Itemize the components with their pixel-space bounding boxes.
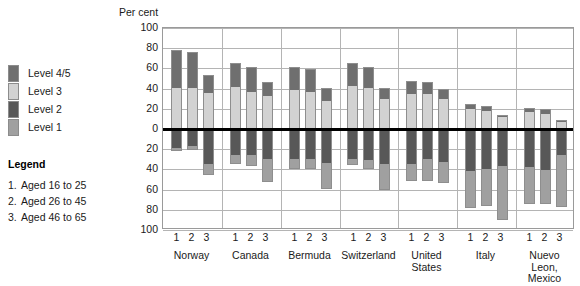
segment-level-1 — [171, 148, 182, 151]
subgroup-number: 1 — [348, 231, 359, 243]
segment-level-1 — [203, 164, 214, 175]
segment-level-1 — [481, 169, 492, 205]
age-number: 1. — [8, 177, 21, 193]
x-axis-labels: 123Norway123Canada123Bermuda123Switzerla… — [162, 231, 574, 286]
subgroup-number: 2 — [186, 231, 197, 243]
segment-level-3 — [262, 96, 273, 129]
segment-level-2 — [540, 129, 551, 170]
x-group-label: 123Italy — [456, 231, 515, 262]
y-tick-label: 20 — [118, 102, 158, 114]
segment-level-2 — [481, 129, 492, 169]
segment-level-3 — [465, 109, 476, 129]
subgroup-numbers: 123 — [397, 231, 456, 243]
segment-level-1 — [422, 159, 433, 180]
subgroup-number: 1 — [171, 231, 182, 243]
y-tick-label: 40 — [118, 162, 158, 174]
subgroup-number: 2 — [421, 231, 432, 243]
legend-item: Level 4/5 — [8, 64, 108, 82]
segment-level-2 — [347, 129, 358, 159]
segment-level-1 — [379, 164, 390, 189]
segment-level-2 — [262, 129, 273, 159]
age-legend: Legend 1. Aged 16 to 25 2. Aged 26 to 45… — [8, 158, 112, 225]
legend-label: Level 4/5 — [28, 68, 71, 79]
subgroup-number: 2 — [480, 231, 491, 243]
plot-area — [162, 27, 574, 229]
segment-level-45 — [438, 89, 449, 99]
level-1-swatch — [8, 119, 19, 136]
segment-level-2 — [230, 129, 241, 155]
country-label: Switzerland — [339, 250, 398, 262]
segment-level-1 — [363, 160, 374, 169]
y-tick-label: 80 — [118, 203, 158, 215]
segment-level-45 — [187, 52, 198, 87]
segment-level-3 — [305, 92, 316, 129]
segment-level-3 — [203, 93, 214, 129]
age-legend-item: 2. Aged 26 to 45 — [8, 193, 112, 209]
segment-level-2 — [465, 129, 476, 171]
segment-level-2 — [305, 129, 316, 159]
legend-label: Level 2 — [28, 104, 62, 115]
subgroup-number: 3 — [260, 231, 271, 243]
age-number: 3. — [8, 209, 21, 225]
subgroup-numbers: 123 — [339, 231, 398, 243]
segment-level-1 — [321, 163, 332, 188]
subgroup-numbers: 123 — [280, 231, 339, 243]
subgroup-number: 3 — [436, 231, 447, 243]
country-label: Nuevo Leon,Mexico — [515, 250, 574, 285]
age-legend-item: 1. Aged 16 to 25 — [8, 177, 112, 193]
x-group-label: 123UnitedStates — [397, 231, 456, 273]
segment-level-2 — [406, 129, 417, 164]
segment-level-1 — [406, 164, 417, 180]
segment-level-45 — [203, 75, 214, 92]
segment-level-45 — [230, 63, 241, 86]
chart: Per cent 10080604020020406080100 123Norw… — [118, 6, 576, 282]
subgroup-number: 3 — [554, 231, 565, 243]
segment-level-3 — [422, 94, 433, 129]
segment-level-3 — [406, 94, 417, 129]
level-45-swatch — [8, 65, 19, 82]
segment-level-45 — [465, 104, 476, 109]
subgroup-number: 3 — [201, 231, 212, 243]
segment-level-3 — [524, 112, 535, 129]
segment-level-2 — [289, 129, 300, 159]
segment-level-45 — [556, 120, 567, 122]
segment-level-45 — [422, 82, 433, 94]
segment-level-45 — [481, 106, 492, 111]
legend-item: Level 2 — [8, 100, 108, 118]
level-3-swatch — [8, 83, 19, 100]
subgroup-number: 1 — [524, 231, 535, 243]
subgroup-numbers: 123 — [221, 231, 280, 243]
legend-item: Level 1 — [8, 118, 108, 136]
y-tick-label: 100 — [118, 21, 158, 33]
segment-level-3 — [540, 114, 551, 129]
age-text: Aged 16 to 25 — [21, 177, 86, 193]
zero-axis-line — [163, 128, 573, 131]
segment-level-2 — [203, 129, 214, 164]
subgroup-number: 1 — [230, 231, 241, 243]
segment-level-45 — [171, 50, 182, 87]
segment-level-1 — [305, 159, 316, 169]
segment-level-3 — [289, 90, 300, 129]
segment-level-3 — [379, 99, 390, 129]
level-legend: Level 4/5 Level 3 Level 2 Level 1 — [8, 64, 108, 136]
segment-level-45 — [524, 108, 535, 112]
segment-level-45 — [347, 63, 358, 85]
subgroup-number: 3 — [495, 231, 506, 243]
segment-level-45 — [289, 67, 300, 89]
x-group-label: 123Canada — [221, 231, 280, 262]
age-text: Aged 26 to 45 — [21, 193, 86, 209]
segment-level-45 — [540, 109, 551, 114]
legend-label: Level 3 — [28, 86, 62, 97]
segment-level-2 — [556, 129, 567, 155]
segment-level-1 — [438, 162, 449, 182]
y-tick-label: 40 — [118, 82, 158, 94]
segment-level-2 — [438, 129, 449, 162]
legend-title: Legend — [8, 158, 112, 170]
age-legend-item: 3. Aged 46 to 65 — [8, 209, 112, 225]
legend-item: Level 3 — [8, 82, 108, 100]
subgroup-number: 2 — [539, 231, 550, 243]
segment-level-2 — [497, 129, 508, 166]
segment-level-3 — [438, 99, 449, 129]
segment-level-2 — [246, 129, 257, 155]
country-label: UnitedStates — [397, 250, 456, 273]
